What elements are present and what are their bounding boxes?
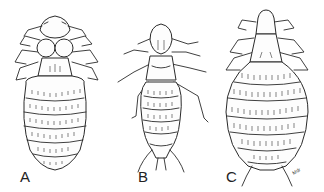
panel-c: C Mdr — [212, 0, 324, 192]
louse-illustration-figure: A — [0, 0, 324, 192]
louse-b-drawing — [108, 0, 212, 192]
panel-b: B — [108, 0, 212, 192]
panel-label-a: A — [20, 168, 30, 185]
louse-a-drawing — [0, 0, 108, 192]
louse-c-drawing — [212, 0, 324, 192]
panel-a: A — [0, 0, 108, 192]
panel-label-c: C — [226, 168, 237, 185]
panel-label-b: B — [138, 168, 148, 185]
